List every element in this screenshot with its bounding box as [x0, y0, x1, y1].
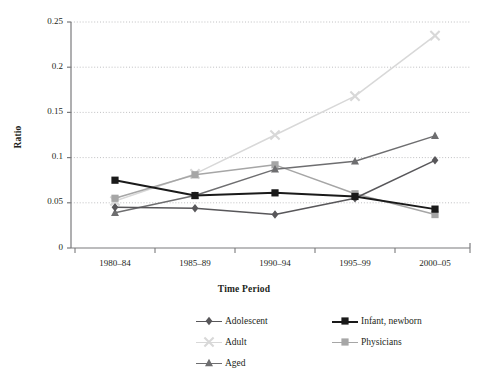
- data-point-marker: [204, 337, 213, 346]
- data-point-marker: [206, 317, 213, 325]
- legend-marker-icon: [196, 358, 222, 368]
- legend-label: Infant, newborn: [361, 316, 422, 326]
- legend-label: Aged: [225, 358, 246, 368]
- legend-item: Aged: [196, 358, 246, 368]
- legend-item: Physicians: [332, 337, 402, 347]
- x-tick-label: 1980–84: [70, 258, 160, 268]
- legend-marker-icon: [196, 316, 222, 326]
- line-chart-figure: Ratio Time Period 00.050.10.150.20.25 19…: [0, 0, 488, 389]
- legend-label: Adolescent: [225, 316, 268, 326]
- x-tick-label: 1990–94: [230, 258, 320, 268]
- x-tick-label: 1995–99: [310, 258, 400, 268]
- legend-marker-icon: [196, 337, 222, 347]
- legend-item: Adolescent: [196, 316, 268, 326]
- legend-label: Physicians: [361, 337, 402, 347]
- x-tick-label: 1985–89: [150, 258, 240, 268]
- legend-marker-icon: [332, 316, 358, 326]
- legend-item: Adult: [196, 337, 247, 347]
- legend-label: Adult: [225, 337, 247, 347]
- x-tick-label: 2000–05: [390, 258, 480, 268]
- data-point-marker: [341, 317, 348, 324]
- data-point-marker: [205, 359, 213, 367]
- legend-marker-icon: [332, 337, 358, 347]
- data-point-marker: [341, 338, 348, 345]
- chart-legend: AdolescentInfant, newbornAdultPhysicians…: [196, 316, 488, 378]
- legend-item: Infant, newborn: [332, 316, 422, 326]
